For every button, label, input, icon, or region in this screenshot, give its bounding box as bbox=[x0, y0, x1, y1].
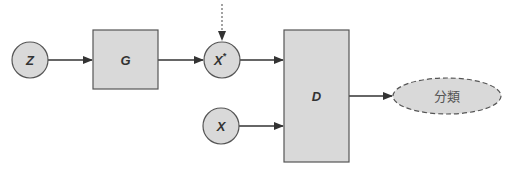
node-output: 分類 bbox=[393, 78, 501, 114]
node-generator-label: G bbox=[120, 53, 130, 68]
node-z-label: Z bbox=[25, 53, 35, 68]
node-x-real-label: X bbox=[216, 119, 227, 134]
node-x-real: X bbox=[203, 108, 239, 144]
node-discriminator: D bbox=[284, 30, 349, 162]
node-z: Z bbox=[12, 42, 48, 78]
node-discriminator-label: D bbox=[312, 89, 322, 104]
node-output-label: 分類 bbox=[434, 89, 460, 104]
node-generator: G bbox=[93, 30, 158, 89]
gan-diagram: Z G X* X D 分類 bbox=[0, 0, 513, 169]
node-x-star: X* bbox=[204, 42, 240, 78]
